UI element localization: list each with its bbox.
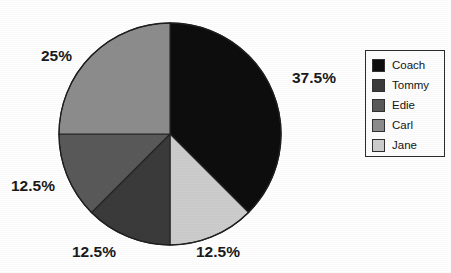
legend-swatch-jane [372, 139, 385, 152]
legend-swatch-coach [372, 59, 385, 72]
slice-label-carl: 25% [41, 48, 72, 64]
legend-label-coach: Coach [392, 60, 425, 72]
legend-swatch-carl [372, 119, 385, 132]
legend-label-carl: Carl [392, 120, 413, 132]
legend-item-tommy[interactable]: Tommy [372, 79, 429, 92]
slice-label-edie: 12.5% [11, 178, 55, 194]
legend-item-edie[interactable]: Edie [372, 99, 415, 112]
legend-item-coach[interactable]: Coach [372, 59, 425, 72]
legend-label-jane: Jane [392, 140, 417, 152]
slice-label-coach: 37.5% [292, 70, 336, 86]
legend-swatch-edie [372, 99, 385, 112]
legend-list: Coach Tommy Edie Carl Jane [366, 51, 444, 156]
slice-label-jane: 12.5% [196, 244, 240, 260]
legend-item-carl[interactable]: Carl [372, 119, 413, 132]
pie-slice-carl[interactable] [59, 23, 170, 134]
legend-label-tommy: Tommy [392, 80, 429, 92]
pie-chart-graphic [58, 22, 282, 246]
legend-swatch-tommy [372, 79, 385, 92]
slice-label-tommy: 12.5% [72, 244, 116, 260]
legend-label-edie: Edie [392, 100, 415, 112]
legend: Coach Tommy Edie Carl Jane [365, 50, 445, 157]
pie-svg [58, 22, 282, 246]
pie-chart-figure: 37.5% 12.5% 12.5% 12.5% 25% Coach Tommy … [0, 0, 451, 273]
legend-item-jane[interactable]: Jane [372, 139, 417, 152]
